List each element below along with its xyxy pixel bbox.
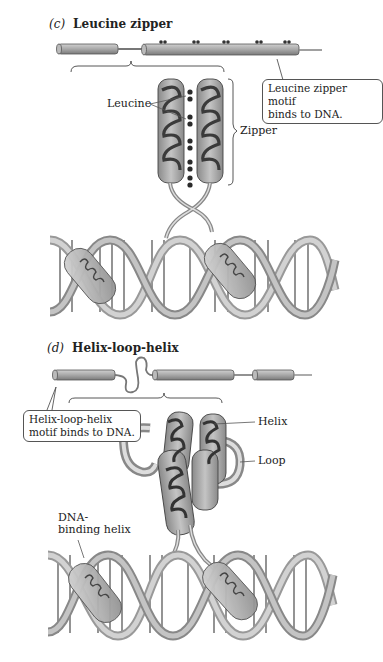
helix-loop-helix-schematic — [47, 358, 312, 411]
zipper-label: Zipper — [240, 125, 277, 137]
panel-d-title: (d)Helix-loop-helix — [47, 341, 179, 355]
callout-line-2: motif binds to DNA. — [29, 426, 135, 439]
leucine-residue-marks — [159, 40, 291, 44]
callout-line-1: Leucine zipper motif — [268, 82, 377, 108]
leucine-zipper-structure — [150, 79, 237, 238]
panel-d-name: Helix-loop-helix — [72, 341, 179, 355]
callout-line-1: Helix-loop-helix — [29, 413, 135, 426]
panel-d-letter: (d) — [47, 341, 64, 355]
leucine-zipper-schematic — [57, 40, 323, 80]
callout-line-2: binds to DNA. — [268, 108, 377, 121]
leucine-label: Leucine — [107, 98, 151, 110]
dna-double-helix-c — [50, 238, 335, 315]
loop-label: Loop — [258, 455, 286, 467]
dna-binding-helix-line-2: binding helix — [58, 524, 131, 536]
dna-binding-helix-label: DNA- binding helix — [58, 512, 131, 536]
panel-c-name: Leucine zipper — [73, 17, 172, 31]
helix-label: Helix — [258, 416, 287, 428]
panel-c-letter: (c) — [49, 17, 65, 31]
dna-double-helix-d — [48, 555, 333, 636]
leucine-zipper-callout: Leucine zipper motif binds to DNA. — [262, 79, 383, 124]
panel-c-title: (c)Leucine zipper — [49, 17, 172, 31]
helix-loop-helix-callout: Helix-loop-helix motif binds to DNA. — [23, 410, 141, 442]
